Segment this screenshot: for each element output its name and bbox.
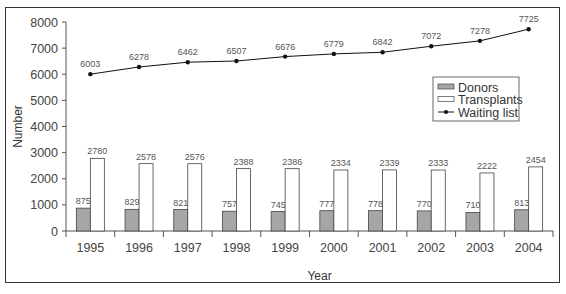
line-value-label: 6779 [324, 39, 344, 49]
legend-marker [444, 110, 448, 114]
bar-value-label: 2339 [380, 158, 400, 168]
bar-donors [222, 211, 236, 231]
y-tick-label: 4000 [30, 120, 58, 134]
bar-value-label: 770 [417, 199, 432, 209]
x-tick-label: 2003 [466, 241, 494, 255]
bar-donors [515, 210, 529, 231]
bar-transplants [431, 170, 445, 231]
line-marker [526, 27, 530, 31]
bar-value-label: 2386 [282, 157, 302, 167]
bar-transplants [188, 164, 202, 231]
line-value-label: 6842 [373, 37, 393, 47]
legend-swatch [438, 84, 454, 89]
legend-swatch [438, 97, 454, 102]
line-value-label: 6278 [129, 52, 149, 62]
bar-transplants [90, 158, 104, 231]
line-value-label: 7725 [519, 14, 539, 24]
y-tick-label: 5000 [30, 94, 58, 108]
bar-value-label: 813 [514, 198, 529, 208]
line-value-label: 6676 [275, 42, 295, 52]
bar-value-label: 875 [76, 196, 91, 206]
bar-transplants [285, 169, 299, 231]
legend-label: Waiting list [458, 106, 518, 120]
bar-donors [76, 208, 90, 231]
bar-value-label: 2780 [87, 146, 107, 156]
line-value-label: 7072 [421, 31, 441, 41]
bar-value-label: 2578 [136, 152, 156, 162]
x-tick-label: 2004 [515, 241, 543, 255]
bar-donors [466, 212, 480, 231]
bar-value-label: 2222 [477, 161, 497, 171]
line-marker [283, 54, 287, 58]
line-waiting-list [90, 29, 528, 74]
bar-value-label: 2454 [526, 155, 546, 165]
line-value-label: 6507 [226, 46, 246, 56]
bar-transplants [529, 167, 543, 231]
line-marker [88, 72, 92, 76]
x-axis-title: Year [307, 269, 331, 283]
bar-transplants [139, 164, 153, 231]
bar-value-label: 778 [368, 199, 383, 209]
x-tick-label: 1997 [174, 241, 202, 255]
bar-value-label: 777 [319, 199, 334, 209]
bar-donors [125, 209, 139, 231]
y-tick-label: 0 [51, 225, 58, 239]
y-tick-label: 1000 [30, 198, 58, 212]
x-tick-label: 1999 [271, 241, 299, 255]
line-marker [478, 39, 482, 43]
line-marker [429, 44, 433, 48]
y-tick-label: 6000 [30, 68, 58, 82]
y-tick-label: 2000 [30, 172, 58, 186]
y-axis-title: Number [11, 105, 25, 148]
bar-value-label: 757 [222, 199, 237, 209]
bar-value-label: 710 [465, 200, 480, 210]
x-tick-label: 2002 [417, 241, 445, 255]
bar-donors [174, 210, 188, 231]
line-marker [380, 50, 384, 54]
bar-transplants [334, 170, 348, 231]
line-marker [186, 60, 190, 64]
bar-value-label: 829 [125, 197, 140, 207]
y-tick-label: 7000 [30, 42, 58, 56]
line-marker [332, 52, 336, 56]
y-tick-label: 3000 [30, 146, 58, 160]
bar-donors [320, 211, 334, 231]
bar-donors [271, 212, 285, 231]
bar-value-label: 2388 [233, 157, 253, 167]
x-tick-label: 2001 [369, 241, 397, 255]
line-marker [137, 65, 141, 69]
bar-transplants [383, 170, 397, 231]
bar-donors [369, 211, 383, 231]
bar-donors [417, 211, 431, 231]
line-value-label: 7278 [470, 26, 490, 36]
x-tick-label: 1998 [223, 241, 251, 255]
chart-canvas: 010002000300040005000600070008000Number1… [0, 0, 566, 294]
bar-value-label: 2333 [428, 158, 448, 168]
y-tick-label: 8000 [30, 16, 58, 30]
x-tick-label: 1995 [76, 241, 104, 255]
x-tick-label: 1996 [125, 241, 153, 255]
x-tick-label: 2000 [320, 241, 348, 255]
bar-transplants [480, 173, 494, 231]
bar-value-label: 2334 [331, 158, 351, 168]
line-value-label: 6003 [80, 59, 100, 69]
bar-value-label: 745 [271, 200, 286, 210]
bar-transplants [236, 169, 250, 231]
line-marker [234, 59, 238, 63]
line-value-label: 6462 [178, 47, 198, 57]
bar-value-label: 821 [173, 198, 188, 208]
bar-value-label: 2576 [185, 152, 205, 162]
